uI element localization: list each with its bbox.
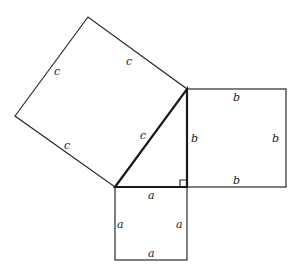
pythagorean-diagram: c c c c b b b b a a a a <box>0 0 303 275</box>
label-c-hypotenuse: c <box>140 129 146 142</box>
label-c-bottom: c <box>64 139 70 152</box>
label-a-top: a <box>148 189 155 202</box>
label-b-top: b <box>233 91 240 104</box>
label-c-top: c <box>126 55 132 68</box>
label-a-left: a <box>117 218 124 231</box>
hypotenuse-square <box>15 17 187 187</box>
right-triangle <box>115 89 187 187</box>
label-a-right: a <box>176 218 183 231</box>
label-b-right: b <box>272 132 279 145</box>
label-c-left: c <box>54 65 60 78</box>
label-b-left: b <box>191 132 198 145</box>
label-b-bottom: b <box>233 174 240 187</box>
label-a-bottom: a <box>148 247 155 260</box>
